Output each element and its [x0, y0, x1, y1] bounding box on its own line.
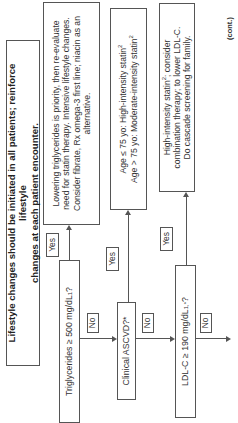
- ascvd-question-box: Clinical ASCVD?*: [117, 302, 136, 400]
- ascvd-no-connector: [136, 338, 171, 339]
- lifestyle-header-line1: Lifestyle changes should be initiated in…: [6, 47, 29, 359]
- ldl-yes-arrow-icon: [183, 192, 189, 197]
- trig-yes-arrow-icon: [66, 225, 72, 230]
- ascvd-yes-label: Yes: [106, 247, 119, 271]
- ldl-no-label: No: [200, 313, 212, 333]
- trig-no-connector: [80, 338, 113, 339]
- ldl-result-box: High-intensity statin2; consider combina…: [159, 3, 195, 192]
- ldl-yes-connector: [186, 196, 187, 265]
- ascvd-result-line2: Age > 75 yo: Moderate-intensity statin2: [129, 35, 139, 183]
- triglycerides-question-box: Triglycerides ≥ 500 mg/dL1?: [59, 260, 80, 423]
- lifestyle-header-line2: changes at each patient encounter.: [29, 123, 40, 283]
- ascvd-result-box: Age ≤ 75 yo: High-intensity statin2 Age …: [110, 8, 147, 210]
- ascvd-yes-arrow-icon: [125, 210, 131, 215]
- continued-label: (cont.): [225, 17, 234, 40]
- trig-no-arrow-icon: [112, 336, 117, 342]
- ldl-question-box: LDL-C ≥ 190 mg/dL1,*?: [175, 265, 196, 418]
- ldl-no-connector: [196, 338, 227, 339]
- ascvd-yes-connector: [128, 214, 129, 302]
- ascvd-no-arrow-icon: [170, 336, 175, 342]
- trig-result-line2: need for statin therapy. Intensive lifes…: [61, 17, 71, 209]
- ldl-result-line3: Do cascade screening for family.: [182, 35, 192, 159]
- trig-result-line1: Lowering triglycerides is priority, then…: [51, 20, 61, 206]
- trig-no-label: No: [87, 313, 99, 333]
- ascvd-no-label: No: [142, 313, 154, 333]
- ldl-result-line2: combination therapy; to lower LDL-C.: [172, 27, 182, 169]
- ascvd-result-line1: Age ≤ 75 yo: High-intensity statin2: [118, 45, 128, 174]
- trig-yes-connector: [69, 229, 70, 260]
- trig-yes-label: Yes: [46, 233, 59, 257]
- ldl-result-line1: High-intensity statin2; consider: [162, 40, 172, 156]
- trig-result-line4: alternative.: [82, 92, 92, 134]
- lifestyle-header-box: Lifestyle changes should be initiated in…: [6, 40, 40, 366]
- trig-result-line3: Consider fibrate, Rx omega-3 first line;…: [72, 16, 82, 211]
- ldl-yes-label: Yes: [160, 227, 173, 251]
- triglycerides-result-box: Lowering triglycerides is priority, then…: [43, 2, 100, 225]
- ldl-no-arrow-icon: [226, 336, 231, 342]
